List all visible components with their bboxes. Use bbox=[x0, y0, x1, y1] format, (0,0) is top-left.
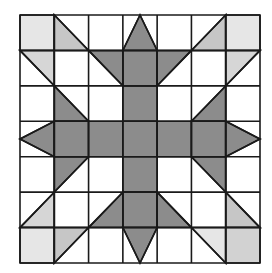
quilt-square-light bbox=[20, 228, 54, 263]
quilt-square-corner_br bbox=[226, 228, 260, 263]
quilt-square-dark bbox=[89, 121, 123, 156]
quilt-square-dark bbox=[54, 121, 88, 156]
quilt-square-dark bbox=[123, 121, 157, 156]
quilt-square-dark bbox=[123, 157, 157, 192]
quilt-block bbox=[0, 0, 272, 273]
quilt-square-dark bbox=[123, 50, 157, 85]
quilt-square-dark bbox=[123, 192, 157, 227]
quilt-square-dark bbox=[157, 121, 191, 156]
quilt-square-dark bbox=[191, 121, 225, 156]
quilt-square-light bbox=[226, 15, 260, 50]
quilt-square-dark bbox=[123, 86, 157, 121]
quilt-square-light bbox=[20, 15, 54, 50]
